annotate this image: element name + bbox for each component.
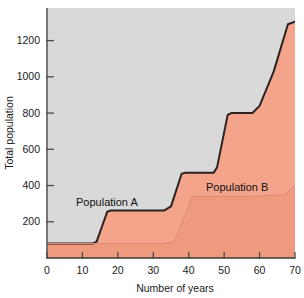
annotation-population-b: Population B	[206, 181, 268, 193]
x-axis-title: Number of years	[136, 282, 214, 294]
chart-canvas: 20040060080010001200 010203040506070 Tot…	[0, 0, 304, 298]
population-growth-chart: 20040060080010001200 010203040506070 Tot…	[0, 0, 304, 298]
y-axis-tick-labels: 20040060080010001200	[17, 34, 41, 227]
annotation-population-a: Population A	[76, 196, 138, 208]
x-axis-tick-labels: 010203040506070	[44, 264, 301, 276]
x-axis-tick-label: 70	[289, 264, 301, 276]
y-axis-title: Total population	[3, 96, 15, 170]
x-axis-tick-label: 30	[147, 264, 159, 276]
x-axis-tick-label: 40	[183, 264, 195, 276]
x-axis-tick-label: 60	[254, 264, 266, 276]
x-axis-tick-label: 50	[218, 264, 230, 276]
x-axis-tick-label: 10	[77, 264, 89, 276]
x-axis-tick-label: 20	[112, 264, 124, 276]
y-axis-tick-label: 1000	[17, 70, 41, 82]
y-axis-tick-label: 400	[22, 179, 40, 191]
y-axis-tick-label: 800	[22, 107, 40, 119]
y-axis-tick-label: 1200	[17, 34, 41, 46]
y-axis-tick-label: 600	[22, 143, 40, 155]
x-axis-tick-label: 0	[44, 264, 50, 276]
y-axis-tick-label: 200	[22, 215, 40, 227]
